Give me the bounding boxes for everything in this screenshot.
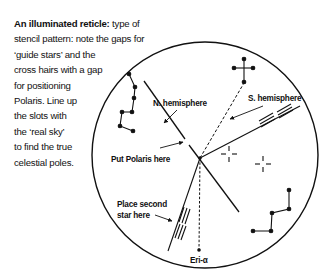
crosshair-1 xyxy=(221,146,237,162)
second-star-slot-line xyxy=(168,158,200,251)
big-dipper-constellation xyxy=(118,72,137,133)
south-hemisphere-label: S. hemisphere xyxy=(248,94,302,103)
put-polaris-label: Put Polaris here xyxy=(111,155,171,164)
eri-alpha-label: Eri-α xyxy=(190,256,208,265)
south-arrow xyxy=(230,106,263,119)
south-slot-line xyxy=(200,104,300,158)
eri-alpha-star xyxy=(197,248,201,252)
second-star-arrow xyxy=(155,215,172,221)
reticle-diagram: N. hemisphere S. hemisphere Put Polaris … xyxy=(0,0,328,276)
crosshair-2 xyxy=(255,156,271,172)
place-second-star-label-1: Place second xyxy=(117,200,167,209)
north-hemisphere-label: N. hemisphere xyxy=(153,99,207,108)
southern-cross-constellation xyxy=(232,57,255,84)
center-point xyxy=(198,156,202,160)
eri-dashed-line xyxy=(199,158,200,249)
place-second-star-label-2: star here xyxy=(117,211,150,220)
lower-right-constellation xyxy=(251,188,291,233)
polaris-arrow xyxy=(160,142,183,148)
